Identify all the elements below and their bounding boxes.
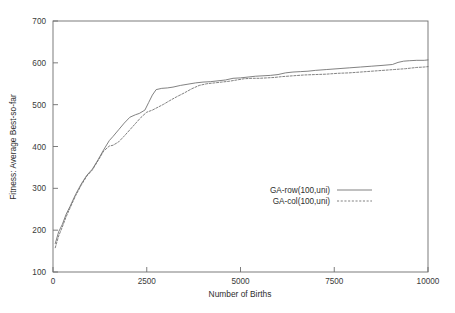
y-tick-label: 600: [32, 59, 46, 68]
y-axis-ticks: 100200300400500600700: [32, 17, 58, 277]
chart-figure: 100200300400500600700 025005000750010000…: [0, 0, 455, 313]
y-tick-label: 500: [32, 101, 46, 110]
y-tick-label: 400: [32, 143, 46, 152]
x-tick-label: 7500: [325, 277, 344, 286]
x-axis-ticks: 025005000750010000: [51, 267, 440, 286]
x-axis-title: Number of Births: [209, 289, 272, 299]
x-tick-label: 2500: [138, 277, 157, 286]
series-line-1: [55, 67, 428, 248]
y-axis-title: Fitness: Average Best-so-far: [8, 94, 18, 200]
legend-label-0: GA-row(100,uni): [270, 186, 330, 195]
data-series-group: [55, 60, 428, 248]
legend-label-1: GA-col(100,uni): [273, 197, 331, 206]
series-line-0: [55, 60, 428, 244]
line-chart: 100200300400500600700 025005000750010000…: [0, 0, 455, 313]
y-tick-label: 300: [32, 184, 46, 193]
y-tick-label: 100: [32, 268, 46, 277]
x-tick-label: 0: [51, 277, 56, 286]
y-tick-label: 700: [32, 17, 46, 26]
legend: GA-row(100,uni)GA-col(100,uni): [270, 186, 372, 206]
y-tick-label: 200: [32, 226, 46, 235]
x-tick-label: 5000: [231, 277, 250, 286]
x-tick-label: 10000: [417, 277, 440, 286]
